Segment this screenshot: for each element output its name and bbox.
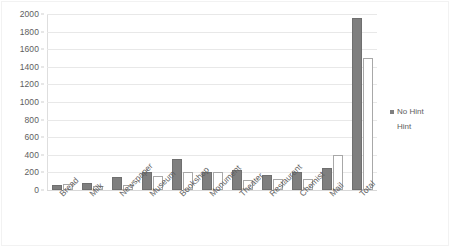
- y-axis-tick-mark: [41, 84, 44, 85]
- y-axis-tick-mark: [41, 119, 44, 120]
- y-axis-tick-label: 1200: [20, 80, 39, 89]
- y-axis-tick-mark: [41, 66, 44, 67]
- y-axis-tick-mark: [41, 137, 44, 138]
- bar-group: [112, 14, 133, 190]
- y-axis-tick-label: 200: [25, 168, 39, 177]
- bar-group: [352, 14, 373, 190]
- y-axis-tick-label: 1800: [20, 27, 39, 36]
- bar-chart: 0200400600800100012001400160018002000 Br…: [0, 0, 450, 247]
- y-axis-tick-mark: [41, 102, 44, 103]
- y-axis-tick-mark: [41, 49, 44, 50]
- legend-swatch-icon: [390, 110, 394, 114]
- bar-no-hint[interactable]: [352, 18, 362, 190]
- bar-group: [202, 14, 223, 190]
- legend-item-hint[interactable]: Hint: [390, 119, 448, 134]
- chart-legend: No Hint Hint: [390, 104, 448, 134]
- y-axis-tick-label: 1600: [20, 45, 39, 54]
- y-axis-tick-label: 0: [34, 186, 39, 195]
- legend-swatch-icon: [390, 125, 394, 129]
- bar-group: [262, 14, 283, 190]
- bar-group: [172, 14, 193, 190]
- bars-layer: [47, 14, 377, 190]
- plot-area: [47, 14, 377, 190]
- legend-item-no-hint[interactable]: No Hint: [390, 104, 448, 119]
- legend-label: Hint: [397, 122, 411, 131]
- bar-group: [52, 14, 73, 190]
- y-axis-tick-mark: [41, 172, 44, 173]
- bar-hint[interactable]: [363, 58, 373, 190]
- x-axis-labels: BreadMilkNewspaperMuseumBookshopMonument…: [47, 192, 377, 244]
- y-axis: 0200400600800100012001400160018002000: [0, 14, 44, 190]
- y-axis-tick-mark: [41, 31, 44, 32]
- y-axis-tick-label: 600: [25, 133, 39, 142]
- y-axis-tick-mark: [41, 190, 44, 191]
- y-axis-tick-label: 2000: [20, 10, 39, 19]
- bar-group: [82, 14, 103, 190]
- y-axis-tick-mark: [41, 154, 44, 155]
- y-axis-tick-label: 1400: [20, 63, 39, 72]
- y-axis-tick-label: 400: [25, 151, 39, 160]
- y-axis-tick-label: 800: [25, 115, 39, 124]
- legend-label: No Hint: [397, 107, 424, 116]
- y-axis-tick-mark: [41, 14, 44, 15]
- bar-group: [322, 14, 343, 190]
- y-axis-tick-label: 1000: [20, 98, 39, 107]
